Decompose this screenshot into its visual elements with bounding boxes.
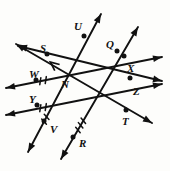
line-W-N-X-tick-2: [45, 77, 46, 84]
point-label-X: X: [127, 63, 134, 74]
line-S-T-diagonal-arrowhead-end: [143, 116, 152, 123]
geometry-diagram: SUQWXNZYVTR: [0, 0, 170, 171]
point-label-Q: Q: [106, 39, 114, 50]
point-label-R: R: [79, 138, 86, 149]
line-Y-parallel-tick-2: [45, 104, 46, 111]
line-W-N-X-tick-1: [40, 78, 41, 85]
point-dot-U: [82, 34, 87, 39]
point-label-Y: Y: [29, 94, 36, 105]
point-dot-R: [71, 135, 76, 140]
point-dot-V: [42, 119, 47, 124]
point-dot-Z: [128, 76, 133, 81]
line-V-N-U-arrowhead-end: [94, 14, 101, 24]
line-S-T-diagonal: [16, 44, 152, 123]
point-dot-Q: [115, 49, 120, 54]
point-label-V: V: [50, 124, 57, 135]
point-label-Z: Z: [133, 86, 140, 97]
point-label-U: U: [74, 21, 82, 32]
line-V-N-U-arrowhead-start: [28, 142, 35, 152]
line-S-T-diagonal-arrowhead-start: [16, 44, 25, 51]
point-label-T: T: [122, 116, 129, 127]
point-label-W: W: [29, 69, 39, 80]
line-R-Q-arrow-arrowhead-start: [61, 150, 68, 159]
point-label-N: N: [61, 79, 69, 90]
line-Y-parallel-tick-1: [40, 105, 41, 112]
point-dot-X: [122, 54, 127, 59]
line-R-Q-arrow-arrowhead-end: [131, 27, 138, 36]
point-label-S: S: [40, 43, 46, 54]
point-dot-T: [124, 108, 129, 113]
